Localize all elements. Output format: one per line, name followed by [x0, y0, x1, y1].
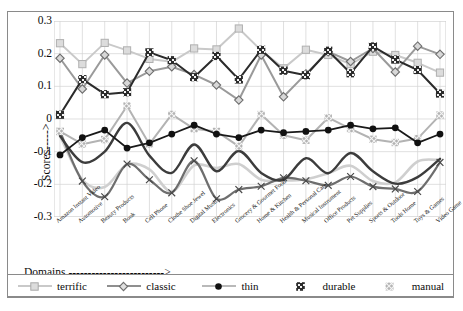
chart-screenshot: 0.30.20.10-0.1-0.2-0.3 Scores-----> — [0, 0, 463, 311]
legend-label: classic — [146, 280, 175, 292]
plot-svg — [54, 21, 446, 217]
y-tick-label: 0.1 — [22, 80, 52, 92]
legend-label: terrific — [57, 280, 87, 292]
legend-item-manual[interactable]: manual — [364, 280, 453, 292]
legend-marker-icon — [18, 280, 52, 292]
legend-label: manual — [412, 280, 444, 292]
plot-area — [54, 21, 446, 217]
legend-item-thin[interactable]: thin — [186, 280, 275, 292]
y-tick-label: 0.2 — [22, 48, 52, 60]
legend-marker-icon — [284, 280, 318, 292]
legend-marker-icon — [107, 280, 141, 292]
chart-frame: 0.30.20.10-0.1-0.2-0.3 Scores-----> — [7, 11, 454, 298]
y-tick-label: 0.3 — [22, 15, 52, 27]
legend-item-durable[interactable]: durable — [275, 280, 364, 292]
legend-item-terrific[interactable]: terrific — [8, 280, 97, 292]
legend-item-classic[interactable]: classic — [97, 280, 186, 292]
legend-label: durable — [323, 280, 356, 292]
legend-label: thin — [241, 280, 258, 292]
legend-marker-icon — [373, 280, 407, 292]
legend-marker-icon — [202, 280, 236, 292]
y-tick-label: -0.3 — [22, 211, 52, 223]
chart-legend: terrificclassicthindurablemanual — [7, 274, 454, 297]
